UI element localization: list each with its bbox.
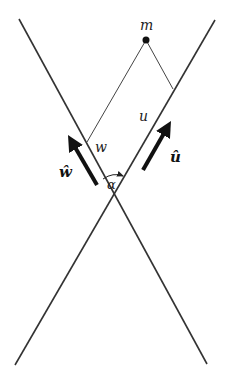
diagram-svg: m w u ŵ û α — [0, 0, 225, 375]
line-right-to-left-descending — [15, 20, 215, 365]
label-w: w — [95, 139, 107, 155]
label-alpha: α — [107, 177, 116, 192]
label-u: u — [139, 108, 148, 124]
segment-m-to-left-line — [87, 40, 146, 142]
arrow-w-hat-icon — [72, 142, 97, 185]
label-u-hat: û — [170, 148, 181, 166]
label-m: m — [140, 17, 153, 33]
segment-m-to-right-line — [146, 40, 173, 89]
arrow-u-hat-icon — [143, 128, 167, 170]
diagram-canvas: m w u ŵ û α — [0, 0, 225, 375]
point-m-dot — [143, 37, 150, 44]
label-w-hat: ŵ — [59, 163, 73, 181]
